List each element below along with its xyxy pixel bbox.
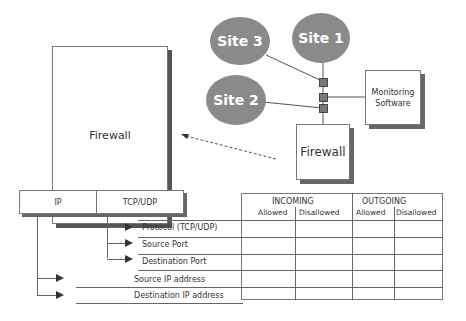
outgoing-header: OUTGOING — [362, 197, 406, 206]
ip-connector — [37, 214, 38, 295]
group-divider — [352, 193, 353, 300]
arrow-icon — [56, 291, 64, 299]
header-field-ip: IP — [20, 191, 97, 213]
incoming-allowed-header: Allowed — [258, 208, 287, 217]
row-label-protocol: Protocol (TCP/UDP) — [142, 223, 217, 232]
tcpudp-branch — [107, 227, 127, 228]
hub-node-2 — [319, 93, 328, 102]
arrow-icon — [125, 255, 133, 263]
arrow-icon — [56, 274, 64, 282]
row-line — [138, 220, 443, 221]
outgoing-disallowed-header: Disallowed — [396, 208, 437, 217]
monitoring-label-line2: Software — [375, 98, 410, 109]
row-line — [76, 287, 443, 288]
tcpudp-branch — [107, 243, 127, 244]
site-2-node: Site 2 — [206, 75, 266, 125]
hub-node-1 — [319, 78, 328, 87]
row-line — [138, 237, 443, 238]
incoming-header: INCOMING — [272, 197, 314, 206]
row-label-source-port: Source Port — [142, 240, 188, 249]
site-2-label: Site 2 — [213, 92, 259, 108]
ip-branch — [37, 295, 57, 296]
small-firewall-label: Firewall — [300, 145, 345, 159]
site-1-label: Site 1 — [298, 30, 344, 46]
tcpudp-connector — [107, 214, 108, 258]
row-label-destination-ip: Destination IP address — [134, 291, 224, 300]
monitoring-software-box: Monitoring Software — [365, 70, 421, 125]
row-line — [138, 254, 443, 255]
outgoing-allowed-header: Allowed — [356, 208, 385, 217]
tcpudp-branch — [107, 259, 127, 260]
arrow-icon — [125, 239, 133, 247]
small-firewall-box: Firewall — [296, 124, 350, 180]
site-3-node: Site 3 — [210, 17, 270, 65]
row-line — [138, 270, 443, 271]
ip-branch — [37, 278, 57, 279]
row-label-source-ip: Source IP address — [134, 275, 205, 284]
site-3-label: Site 3 — [217, 33, 263, 49]
monitoring-label-line1: Monitoring — [372, 87, 415, 98]
hub-node-3 — [319, 104, 328, 113]
incoming-disallowed-header: Disallowed — [299, 208, 340, 217]
header-field-ip-label: IP — [54, 198, 61, 207]
site-1-node: Site 1 — [292, 13, 350, 63]
arrow-icon — [125, 223, 133, 231]
row-line — [76, 303, 243, 304]
header-field-tcpudp: TCP/UDP — [97, 191, 183, 213]
packet-header: IP TCP/UDP — [19, 190, 184, 214]
header-field-tcpudp-label: TCP/UDP — [123, 198, 157, 207]
row-label-destination-port: Destination Port — [142, 257, 206, 266]
